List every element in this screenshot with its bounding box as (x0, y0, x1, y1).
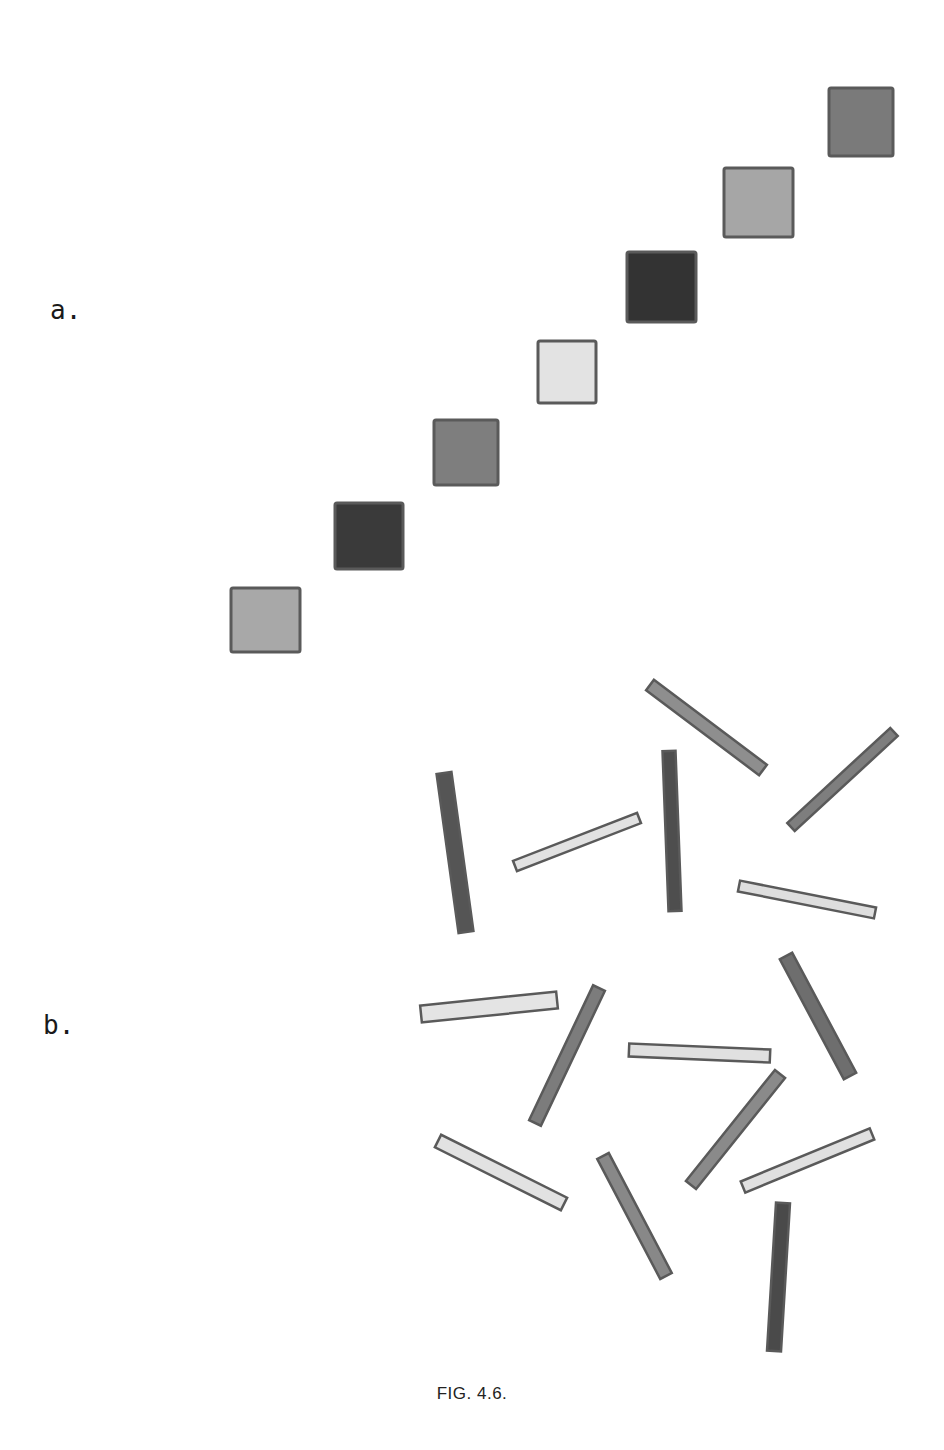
figure-canvas (0, 0, 944, 1450)
panel-b-bars (420, 680, 898, 1352)
square-3 (434, 420, 498, 485)
square-5 (627, 252, 696, 322)
bar-3 (437, 772, 474, 933)
square-7 (829, 88, 893, 156)
bar-13 (597, 1153, 672, 1279)
square-1 (231, 588, 300, 652)
panel-a-squares (231, 88, 893, 652)
square-4 (538, 341, 596, 403)
bar-4 (513, 813, 641, 871)
bar-10 (780, 953, 856, 1080)
bar-15 (767, 1203, 790, 1352)
bar-2 (787, 728, 897, 831)
figure-caption: FIG. 4.6. (0, 1384, 944, 1404)
bar-14 (741, 1128, 875, 1192)
bar-12 (435, 1135, 567, 1211)
bar-9 (629, 1044, 771, 1063)
bar-5 (663, 751, 682, 911)
square-2 (335, 503, 403, 569)
bar-6 (738, 881, 876, 919)
square-6 (724, 168, 793, 237)
bar-7 (420, 992, 558, 1023)
